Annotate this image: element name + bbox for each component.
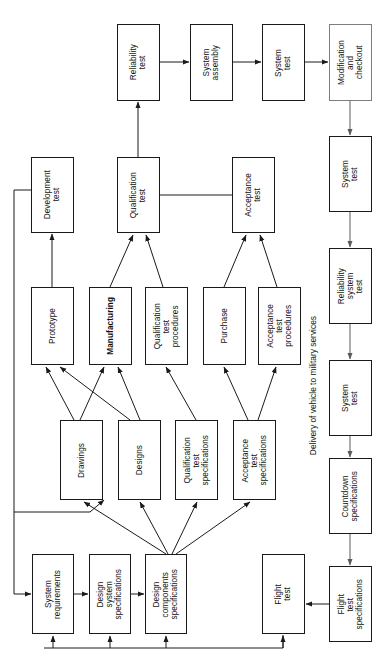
node-reliability-test: Reliability test (117, 24, 160, 101)
node-qualification-test-procedures: Qualification test procedures (145, 287, 188, 365)
node-label: Manufacturing (106, 297, 115, 355)
node-label: Design system specifications (96, 569, 124, 620)
node-system-test-third: System test (329, 360, 372, 436)
connector-flight-test-feedback (44, 635, 283, 648)
node-label: System requirements (44, 570, 62, 619)
node-label: Countdown specifications (341, 471, 359, 522)
connector-group-row3-to-row2 (110, 235, 277, 287)
node-label: Acceptance test (244, 173, 262, 217)
node-designs: Designs (118, 420, 161, 500)
node-development-test: Development test (31, 157, 74, 233)
node-system-test-top: System test (262, 24, 305, 101)
node-acceptance-test: Acceptance test (232, 157, 275, 233)
node-acceptance-test-specifications: Acceptance test specifications (233, 420, 276, 500)
node-qualification-test-specifications: Qualification test specifications (175, 420, 218, 500)
node-system-requirements: System requirements (32, 554, 74, 634)
connector-group-components-to-row4 (84, 502, 250, 554)
node-design-components-specifications: Design components specifications (145, 554, 187, 634)
node-label: Acceptance test specifications (241, 435, 269, 486)
node-label: Design components specifications (152, 569, 180, 620)
node-label: System test (341, 160, 359, 188)
node-label: Prototype (48, 308, 57, 344)
node-label: Qualification test specifications (183, 435, 211, 486)
node-label: Qualification test (129, 172, 147, 218)
node-system-assembly: System assembly (190, 24, 233, 101)
node-purchase: Purchase (203, 287, 246, 365)
node-manufacturing: Manufacturing (89, 287, 132, 365)
node-system-test-second: System test (329, 136, 372, 212)
node-flight-test-specifications: Flight test specifications (329, 566, 372, 642)
connector-development-feedback (14, 190, 31, 594)
node-reliability-system-test: Reliability system test (329, 248, 372, 324)
flowchart-diagram: Reliability testSystem assemblySystem te… (0, 0, 387, 666)
node-qualification-test: Qualification test (117, 157, 160, 233)
node-prototype: Prototype (31, 287, 74, 365)
node-label: Flight test (274, 584, 292, 605)
connector-group-row4-to-row3 (46, 367, 276, 420)
node-label: Reliability system test (337, 268, 365, 304)
node-modification-and-checkout: Modification and checkout (329, 24, 372, 101)
node-flight-test: Flight test (262, 554, 305, 634)
node-label: Purchase (220, 308, 229, 343)
node-drawings: Drawings (60, 420, 103, 500)
node-label: Drawings (77, 443, 86, 478)
node-design-system-specifications: Design system specifications (89, 554, 131, 634)
node-acceptance-test-procedures: Acceptance test procedures (258, 287, 301, 365)
delivery-note-label: Delivery of vehicle to military services (309, 316, 317, 455)
node-label: Development test (43, 170, 61, 219)
node-label: Flight test specifications (337, 579, 365, 630)
node-label: Reliability test (129, 44, 147, 80)
node-countdown-specifications: Countdown specifications (329, 458, 372, 534)
node-label: Designs (135, 445, 144, 475)
node-label: System assembly (202, 45, 220, 80)
node-label: Acceptance test procedures (266, 304, 294, 348)
node-label: System test (274, 49, 292, 77)
node-label: Modification and checkout (337, 40, 365, 85)
node-label: System test (341, 384, 359, 412)
node-label: Qualification test procedures (153, 303, 181, 349)
